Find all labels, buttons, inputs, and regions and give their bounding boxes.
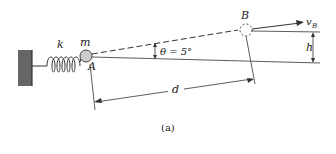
- mass-b: [240, 24, 252, 36]
- label-a: A: [87, 60, 96, 73]
- wall: [18, 50, 32, 86]
- velocity-arrow: [252, 23, 300, 29]
- label-angle: θ = 5°: [160, 46, 192, 57]
- label-m: m: [80, 36, 90, 49]
- label-h: h: [306, 41, 313, 54]
- label-k: k: [57, 38, 64, 51]
- figure-caption: (a): [161, 122, 175, 133]
- label-velocity-sub: B: [311, 22, 317, 30]
- reference-line: [92, 57, 320, 63]
- label-d: d: [172, 83, 179, 96]
- spring-mass-diagram: k m A B θ = 5° v B h d (a): [0, 0, 336, 154]
- label-b: B: [240, 9, 249, 22]
- spring: [47, 57, 80, 72]
